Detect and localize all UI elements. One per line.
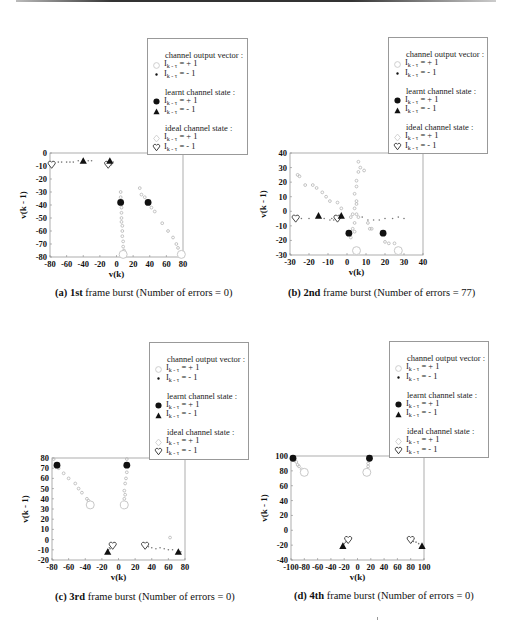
x-tick-label: 20 xyxy=(367,562,376,572)
x-tick-label: -60 xyxy=(312,562,323,572)
y-tick-label: 20 xyxy=(280,510,289,520)
legend-group: learnt channel state :Ik - τ = + 1Ik - τ… xyxy=(390,391,488,420)
open-circle-icon xyxy=(390,364,406,373)
data-points xyxy=(290,455,426,549)
plot-frame xyxy=(291,456,424,560)
filled-triangle-icon xyxy=(390,410,406,419)
legend-group: channel output vector :Ik - τ = + 1Ik - … xyxy=(390,354,488,383)
open-heart-icon xyxy=(390,446,406,455)
legend-group: ideal channel state :Ik - τ = + 1Ik - τ … xyxy=(390,427,488,456)
x-tick-label: 100 xyxy=(418,562,431,572)
x-tick-label: 0 xyxy=(355,562,359,572)
y-tick-label: -40 xyxy=(277,555,288,565)
legend-entry-label: Ik - τ = - 1 xyxy=(406,445,438,458)
legend-entry: Ik - τ = + 1 xyxy=(390,437,488,447)
x-tick-label: 60 xyxy=(393,562,402,572)
x-tick-label: 80 xyxy=(406,562,415,572)
x-axis-label: v(k) xyxy=(350,572,366,582)
small-dot-icon xyxy=(390,373,406,382)
open-diamond-icon xyxy=(390,437,406,446)
y-axis-label: v(k - 1) xyxy=(259,494,269,522)
legend-entry: Ik - τ = + 1 xyxy=(390,400,488,410)
figure-caption-d: (d) 4th frame burst (Number of errors = … xyxy=(294,590,474,601)
legend-entry-label: Ik - τ = - 1 xyxy=(406,372,438,385)
filled-circle-icon xyxy=(390,400,406,409)
legend-d: channel output vector :Ik - τ = + 1Ik - … xyxy=(389,341,489,458)
y-tick-label: 0 xyxy=(284,525,288,535)
y-axis-ticks: 100806040200-20-40 xyxy=(275,451,293,565)
x-tick-label: 40 xyxy=(380,562,389,572)
stray-mark xyxy=(377,617,378,620)
y-tick-label: -20 xyxy=(277,540,288,550)
legend-entry: Ik - τ = + 1 xyxy=(390,364,488,374)
x-tick-label: -80 xyxy=(299,562,310,572)
x-tick-label: -20 xyxy=(339,562,350,572)
x-tick-label: -40 xyxy=(325,562,336,572)
y-tick-label: 80 xyxy=(280,466,289,476)
y-tick-label: 60 xyxy=(280,481,289,491)
y-tick-label: 40 xyxy=(280,496,289,506)
y-tick-label: 100 xyxy=(275,451,288,461)
legend-entry-label: Ik - τ = - 1 xyxy=(406,408,438,421)
